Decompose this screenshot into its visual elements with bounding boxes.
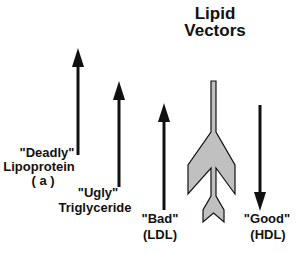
ugly-label-line2: Triglyceride (59, 201, 132, 215)
good-label-line2: (HDL) (250, 228, 285, 242)
deadly-lipoprotein-arrow-icon (72, 48, 84, 155)
bad-ldl-arrow-icon (158, 103, 170, 210)
good-hdl-arrow-icon (254, 105, 266, 211)
ugly-triglyceride-arrow-icon (113, 81, 125, 187)
title-line-1: Lipid (195, 5, 236, 22)
deadly-label: "Deadly" (20, 146, 75, 160)
bad-label: "Bad" (142, 212, 179, 226)
deadly-label-line2: Lipoprotein (3, 160, 75, 174)
lipid-vectors-diagram: Lipid Vectors "Deadly" Lipoprotein ( a )… (0, 0, 297, 253)
title-line-2: Vectors (184, 22, 245, 39)
ugly-label: "Ugly" (78, 186, 119, 200)
deadly-label-line3: ( a ) (31, 174, 54, 188)
good-label: "Good" (244, 212, 290, 226)
bad-label-line2: (LDL) (143, 228, 177, 242)
resultant-vector-icon (188, 81, 235, 222)
